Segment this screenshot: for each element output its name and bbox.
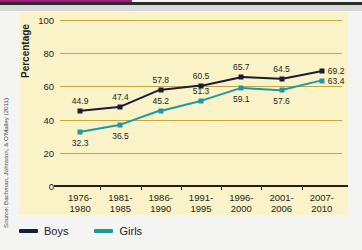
data-point-marker [319,69,324,74]
legend-swatch-icon [19,229,38,233]
data-point-label: 60.5 [193,71,210,81]
gridline [60,153,342,154]
legend-label: Girls [119,225,142,237]
legend-swatch-icon [94,229,113,233]
x-axis-line [54,185,348,187]
data-point-marker [78,130,83,135]
x-tick-mark [100,186,101,190]
y-tick-label: 20 [43,147,54,158]
x-tick-mark [261,186,262,190]
data-point-marker [279,88,284,93]
plot-area: 020406080100 1976- 19801981- 19851986- 1… [60,20,342,186]
gridline [60,53,342,54]
data-point-marker [118,105,123,110]
data-point-marker [158,108,163,113]
data-point-label: 47.4 [112,92,129,102]
legend-item-boys[interactable]: Boys [19,225,68,237]
y-tick-label: 80 [43,48,54,59]
y-tick-label: 100 [38,15,54,26]
chart-legend: BoysGirls [19,225,142,237]
line-segment [241,76,281,80]
data-point-marker [199,98,204,103]
data-point-label: 64.5 [273,64,290,74]
x-category-label: 1996- 2000 [229,192,253,214]
data-point-label: 57.6 [273,96,290,106]
x-category-label: 1976- 1980 [68,192,92,214]
data-point-marker [158,88,163,93]
y-tick-label: 40 [43,114,54,125]
x-tick-mark [141,186,142,190]
data-point-label: 45.2 [152,96,169,106]
data-point-label: 59.1 [233,94,250,104]
data-point-label: 63.4 [328,76,345,86]
plot-panel: 020406080100 1976- 19801981- 19851986- 1… [19,12,348,215]
y-tick-label: 60 [43,81,54,92]
data-point-label: 44.9 [72,96,89,106]
gridline [60,120,342,121]
x-category-label: 1986- 1990 [149,192,173,214]
data-point-marker [78,109,83,114]
data-point-label: 51.3 [193,86,210,96]
data-point-marker [118,123,123,128]
line-segment [241,87,281,92]
legend-item-girls[interactable]: Girls [94,225,142,237]
source-credit: Source: Bachman, Johnston, & O'Malley (2… [2,98,9,228]
y-axis-title: Percentage [20,24,31,78]
data-point-marker [239,85,244,90]
data-point-label: 32.3 [72,138,89,148]
data-point-label: 69.2 [328,66,345,76]
line-segment [120,110,161,126]
x-tick-mark [302,186,303,190]
gridline [60,20,342,21]
legend-label: Boys [44,225,68,237]
data-point-marker [319,78,324,83]
data-point-marker [239,74,244,79]
data-point-marker [279,76,284,81]
x-tick-mark [221,186,222,190]
data-point-label: 36.5 [112,131,129,141]
x-category-label: 1991- 1995 [189,192,213,214]
x-category-label: 1981- 1985 [108,192,132,214]
chart-figure: 020406080100 1976- 19801981- 19851986- 1… [0,0,362,250]
line-segment [80,106,120,112]
data-point-label: 57.8 [152,75,169,85]
x-category-label: 2001- 2006 [269,192,293,214]
x-category-label: 2007- 2010 [310,192,334,214]
data-point-label: 65.7 [233,62,250,72]
x-tick-mark [181,186,182,190]
